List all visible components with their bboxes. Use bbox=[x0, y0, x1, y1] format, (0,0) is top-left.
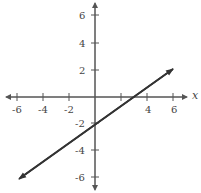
y-tick-label: -4 bbox=[75, 145, 85, 156]
x-tick-label: 6 bbox=[171, 104, 177, 115]
y-tick-label: 4 bbox=[79, 38, 85, 49]
coordinate-plane: -6 -4 -2 4 6 x 6 4 2 -2 -4 -6 bbox=[0, 0, 201, 193]
x-tick-label: -6 bbox=[12, 104, 22, 115]
x-tick-label: -4 bbox=[38, 104, 48, 115]
y-tick-label: 2 bbox=[79, 65, 85, 76]
y-tick-label: 6 bbox=[79, 10, 85, 21]
y-tick-label: -2 bbox=[75, 118, 85, 129]
y-tick-label: -6 bbox=[75, 172, 85, 183]
x-axis-label: x bbox=[192, 89, 199, 102]
x-tick-label: -2 bbox=[64, 104, 74, 115]
x-tick-label: 4 bbox=[145, 104, 151, 115]
